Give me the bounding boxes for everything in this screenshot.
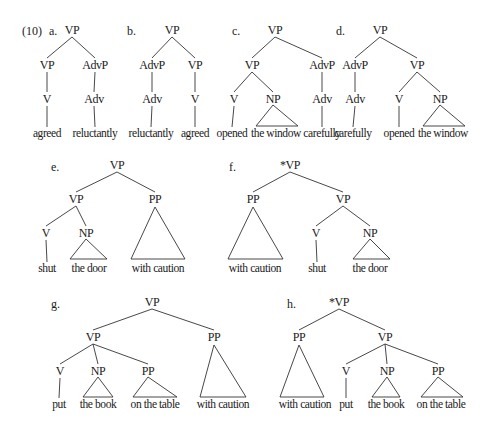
- tree-branch: [94, 106, 95, 127]
- tree-branch: [60, 344, 93, 364]
- tree-branch: [93, 309, 152, 330]
- category-node: NP: [79, 226, 94, 240]
- terminal-word: the door: [353, 262, 388, 274]
- category-node: Adv: [142, 92, 162, 106]
- category-node: NP: [380, 364, 395, 378]
- category-node: VP: [373, 23, 388, 37]
- tree-branch: [152, 37, 172, 58]
- tree-branch: [355, 37, 380, 58]
- category-node: NP: [91, 364, 106, 378]
- constituent-triangle: [83, 377, 113, 397]
- category-node: V: [395, 92, 404, 106]
- tree-branch: [343, 206, 370, 226]
- category-node: PP: [247, 192, 260, 206]
- terminal-word: the window: [418, 127, 469, 139]
- category-node: VP: [336, 192, 351, 206]
- constituent-triangle: [280, 345, 324, 397]
- category-node: NP: [363, 226, 378, 240]
- category-node: V: [43, 92, 52, 106]
- tree-branch: [385, 344, 387, 364]
- tree-branch: [252, 72, 273, 92]
- category-node: PP: [432, 364, 445, 378]
- category-node: VP: [40, 58, 55, 72]
- tree-branch: [316, 206, 343, 226]
- category-node: V: [56, 364, 65, 378]
- terminal-word: with caution: [229, 262, 282, 274]
- tree-branch: [316, 240, 317, 262]
- tree-branch: [46, 206, 76, 226]
- category-node: V: [191, 92, 200, 106]
- terminal-word: carefully: [334, 127, 372, 140]
- category-node: VP: [268, 23, 283, 37]
- category-node: AdvP: [342, 58, 368, 72]
- category-node: Adv: [345, 92, 365, 106]
- tree-d: d.VPAdvPVPAdvVNPcarefullyopenedthe windo…: [334, 23, 469, 140]
- category-node: VP: [378, 330, 393, 344]
- tree-branch: [76, 172, 117, 192]
- tree-branch: [380, 37, 417, 58]
- tree-branch: [290, 172, 343, 192]
- tree-branch: [117, 172, 155, 192]
- example-number: (10): [22, 24, 42, 38]
- tree-label: c.: [232, 24, 240, 38]
- tree-branch: [253, 172, 290, 192]
- terminal-word: reluctantly: [73, 127, 118, 140]
- tree-branch: [399, 72, 417, 92]
- tree-branch: [234, 72, 252, 92]
- tree-label: d.: [336, 24, 345, 38]
- category-node: Adv: [312, 92, 332, 106]
- category-node: VP: [188, 58, 203, 72]
- category-node: VP: [110, 158, 125, 172]
- terminal-word: put: [339, 398, 354, 411]
- tree-branch: [172, 37, 195, 58]
- category-node: AdvP: [82, 58, 108, 72]
- terminal-word: shut: [308, 262, 327, 274]
- category-node: V: [42, 226, 51, 240]
- tree-branch: [232, 106, 234, 127]
- category-node: VP: [245, 58, 260, 72]
- tree-branch: [93, 344, 98, 364]
- category-node: NP: [433, 92, 448, 106]
- category-node: PP: [208, 330, 221, 344]
- constituent-triangle: [131, 207, 185, 259]
- category-node: AdvP: [139, 58, 165, 72]
- terminal-word: agreed: [181, 127, 210, 140]
- category-node: VP: [410, 58, 425, 72]
- category-node: Adv: [84, 92, 104, 106]
- terminal-word: the door: [72, 262, 107, 274]
- category-node: AdvP: [309, 58, 335, 72]
- category-node: VP: [69, 192, 84, 206]
- tree-label: a.: [49, 24, 57, 38]
- tree-a: a.VPVPAdvPVAdvagreedreluctantly: [33, 23, 118, 140]
- tree-branch: [346, 344, 385, 364]
- constituent-triangle: [200, 345, 246, 397]
- category-node: PP: [293, 330, 306, 344]
- tree-b: b.VPAdvPVPAdvVreluctantlyagreed: [127, 23, 210, 140]
- tree-branch: [151, 106, 152, 127]
- tree-branch: [94, 72, 95, 92]
- tree-label: b.: [127, 24, 136, 38]
- terminal-word: with caution: [197, 398, 250, 410]
- terminal-word: with caution: [279, 398, 332, 410]
- tree-c: c.VPVPAdvPVNPAdvopenedthe windowcarefull…: [217, 23, 342, 140]
- terminal-word: shut: [38, 262, 57, 274]
- category-node: *VP: [329, 295, 350, 309]
- category-node: VP: [145, 295, 160, 309]
- terminal-word: opened: [384, 127, 415, 140]
- tree-branch: [59, 378, 60, 398]
- constituent-triangle: [70, 239, 107, 259]
- tree-branch: [72, 37, 95, 58]
- constituent-triangle: [228, 207, 283, 259]
- category-node: VP: [86, 330, 101, 344]
- tree-branch: [275, 37, 322, 58]
- tree-branch: [417, 72, 440, 92]
- terminal-word: on the table: [417, 398, 466, 410]
- tree-branch: [385, 344, 438, 364]
- terminal-word: reluctantly: [129, 127, 174, 140]
- category-node: VP: [65, 23, 80, 37]
- constituent-triangle: [423, 105, 465, 126]
- tree-f: f.*VPPPVPVNPwith cautionshutthe door: [228, 158, 390, 274]
- tree-branch: [339, 309, 385, 330]
- category-node: V: [230, 92, 239, 106]
- category-node: *VP: [280, 158, 301, 172]
